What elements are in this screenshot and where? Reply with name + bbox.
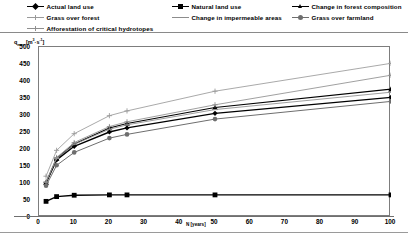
data-point: [107, 136, 112, 141]
legend-item-actual-land-use[interactable]: Actual land use: [27, 2, 94, 11]
data-point: [44, 199, 49, 204]
x-tick-label: 0: [27, 218, 49, 225]
legend-label: Change in impermeable areas: [192, 13, 282, 22]
series-natural-land-use: [44, 193, 391, 204]
x-tick-label: 50: [203, 218, 225, 225]
series-line: [46, 195, 391, 201]
legend-item-afforestation-of-critical-hydrotopes[interactable]: Afforestation of critical hydrotopes: [27, 24, 153, 33]
data-point: [54, 194, 59, 199]
legend-key-circle-icon: [292, 13, 309, 22]
y-tick-label: 50: [0, 196, 30, 203]
data-point: [124, 125, 129, 130]
x-tick-label: 10: [62, 218, 84, 225]
data-point: [388, 61, 391, 66]
data-point: [124, 108, 129, 113]
legend-label: Actual land use: [47, 2, 94, 11]
legend-item-change-in-impermeable-areas[interactable]: Change in impermeable areas: [172, 13, 282, 22]
chart-legend: Actual land use Natural land use Change …: [0, 0, 408, 33]
data-point: [388, 73, 391, 78]
y-tick-label: 150: [0, 162, 30, 169]
legend-key-cross-icon: [27, 24, 44, 33]
y-tick-label: 500: [0, 43, 30, 50]
series-grass-over-forest: [43, 61, 391, 179]
y-tick-label: 250: [0, 128, 30, 135]
legend-item-change-in-forest-composition[interactable]: Change in forest composition: [292, 2, 402, 11]
legend-row-1: Actual land use Natural land use Change …: [0, 2, 408, 12]
legend-key-cross-icon: [27, 13, 44, 22]
series-line: [46, 101, 391, 185]
series-afforestation-of-critical-hydrotopes: [43, 73, 391, 185]
x-tick-label: 20: [97, 218, 119, 225]
legend-label: Change in forest composition: [312, 2, 402, 11]
y-tick-label: 200: [0, 145, 30, 152]
series-line: [46, 63, 391, 176]
legend-key-diamond-icon: [27, 2, 44, 11]
legend-row-3: Afforestation of critical hydrotopes: [0, 24, 408, 34]
data-point: [389, 99, 391, 104]
data-point: [72, 193, 77, 198]
data-point: [107, 193, 112, 198]
data-point: [212, 89, 217, 94]
y-tick-label: 350: [0, 94, 30, 101]
x-tick-label: 70: [273, 218, 295, 225]
legend-label: Grass over forest: [47, 13, 100, 22]
legend-label: Natural land use: [192, 2, 242, 11]
data-point: [72, 150, 77, 155]
legend-key-square-icon: [172, 2, 189, 11]
x-tick-label: 90: [344, 218, 366, 225]
legend-label: Grass over farmland: [312, 13, 374, 22]
legend-item-natural-land-use[interactable]: Natural land use: [172, 2, 241, 11]
x-tick-label: 60: [238, 218, 260, 225]
y-tick-label: 450: [0, 60, 30, 67]
series-line: [46, 75, 391, 182]
figure-bottom-rule: [0, 232, 408, 233]
y-axis-title-unit-close: ]: [43, 39, 45, 45]
legend-item-grass-over-farmland[interactable]: Grass over farmland: [292, 13, 374, 22]
data-point: [212, 111, 217, 116]
legend-item-grass-over-forest[interactable]: Grass over forest: [27, 13, 99, 22]
plot-area: [38, 46, 390, 216]
data-point: [212, 102, 217, 107]
data-point: [107, 113, 112, 118]
x-tick-label: 100: [379, 218, 401, 225]
series-line: [46, 89, 391, 183]
data-point: [213, 193, 218, 198]
chart-figure: Actual land use Natural land use Change …: [0, 0, 408, 239]
series-canvas: [39, 47, 391, 217]
y-tick-label: 400: [0, 77, 30, 84]
x-tick-label: 30: [133, 218, 155, 225]
x-axis-line: [14, 216, 394, 217]
y-tick-label: 100: [0, 179, 30, 186]
x-tick-label: 80: [309, 218, 331, 225]
x-axis-title: N [years]: [186, 222, 206, 227]
data-point: [125, 193, 130, 198]
data-point: [54, 163, 59, 168]
legend-label: Afforestation of critical hydrotopes: [47, 24, 154, 33]
series-line: [46, 97, 391, 183]
data-point: [125, 132, 130, 137]
legend-key-dash-icon: [172, 13, 189, 22]
y-tick-label: 300: [0, 111, 30, 118]
legend-key-triangle-icon: [292, 2, 309, 11]
legend-row-2: Grass over forest Change in impermeable …: [0, 13, 408, 23]
data-point: [389, 193, 391, 198]
data-point: [213, 117, 218, 122]
series-actual-land-use: [43, 95, 391, 186]
